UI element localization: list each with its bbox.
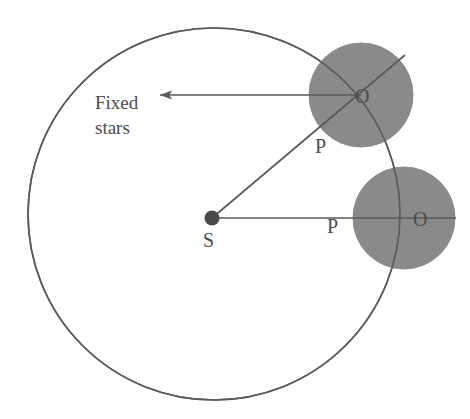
sun-center-label: S (203, 229, 214, 251)
orbit-point-upper-label: P (315, 135, 326, 157)
sun-dot (205, 211, 220, 226)
diagram-canvas: Fixed stars S P P O O (0, 0, 470, 419)
fixed-stars-label-line1: Fixed (95, 92, 139, 113)
body-center-upper-label: O (355, 85, 369, 107)
body-center-lower-label: O (413, 208, 427, 230)
fixed-stars-label-line2: stars (95, 117, 130, 138)
geometry-diagram: Fixed stars S P P O O (0, 0, 470, 419)
orbit-point-lower-label: P (327, 215, 338, 237)
